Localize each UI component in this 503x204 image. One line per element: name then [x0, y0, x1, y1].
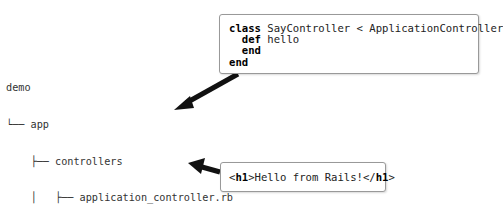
arrow-to-hello-view: [188, 158, 220, 174]
say-controller-code-callout: class SayController < ApplicationControl…: [219, 14, 479, 74]
hello-view-code-callout: <h1>Hello from Rails!</h1>: [220, 162, 386, 192]
arrow-to-say-controller: [174, 74, 238, 110]
code-line-2: def hello: [229, 34, 478, 45]
code-line-3: end: [229, 45, 478, 56]
code-line-4: end: [229, 57, 478, 68]
